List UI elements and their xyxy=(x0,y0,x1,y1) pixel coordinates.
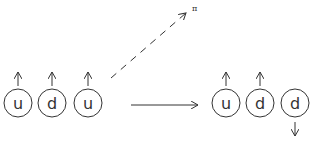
quark-final-1: u xyxy=(212,72,240,117)
quark-label: u xyxy=(13,94,23,113)
quark-initial-1: u xyxy=(4,72,32,117)
quark-final-3: d xyxy=(281,89,309,136)
initial-state: u d u xyxy=(4,72,102,117)
quark-transition-diagram: u d u π u d d xyxy=(0,0,317,143)
pion-label: π xyxy=(192,4,197,13)
quark-final-2: d xyxy=(246,72,274,117)
quark-label: u xyxy=(83,94,93,113)
quark-initial-2: d xyxy=(38,72,66,117)
quark-label: d xyxy=(290,94,300,113)
pion-emission-arrow-icon xyxy=(111,13,186,78)
quark-initial-3: u xyxy=(74,72,102,117)
quark-label: d xyxy=(47,94,57,113)
quark-label: u xyxy=(221,94,231,113)
quark-label: d xyxy=(255,94,265,113)
final-state: u d d xyxy=(212,72,309,136)
